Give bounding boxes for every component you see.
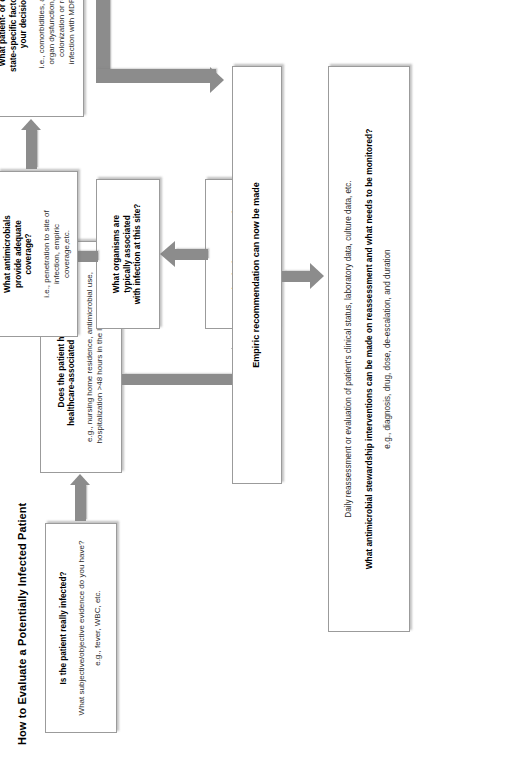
node-daily-reassessment: Daily reassessment or evaluation of pati… [328, 66, 410, 632]
flowchart-canvas: How to Evaluate a Potentially Infected P… [0, 0, 515, 761]
node-line1: Daily reassessment or evaluation of pati… [344, 180, 355, 517]
node-heading: Empiric recommendation can now be made [251, 182, 263, 368]
node-line3: e.g., diagnosis, drug, dose, de-escalati… [383, 249, 394, 448]
arrowhead-to-empiric [210, 55, 234, 97]
node-line2: What antimicrobial stewardship intervent… [364, 129, 375, 570]
arrow-empiric-to-reassessment [282, 261, 326, 291]
node-empiric-recommendation: Empiric recommendation can now be made [232, 66, 282, 484]
flowchart-stage: How to Evaluate a Potentially Infected P… [0, 0, 515, 761]
